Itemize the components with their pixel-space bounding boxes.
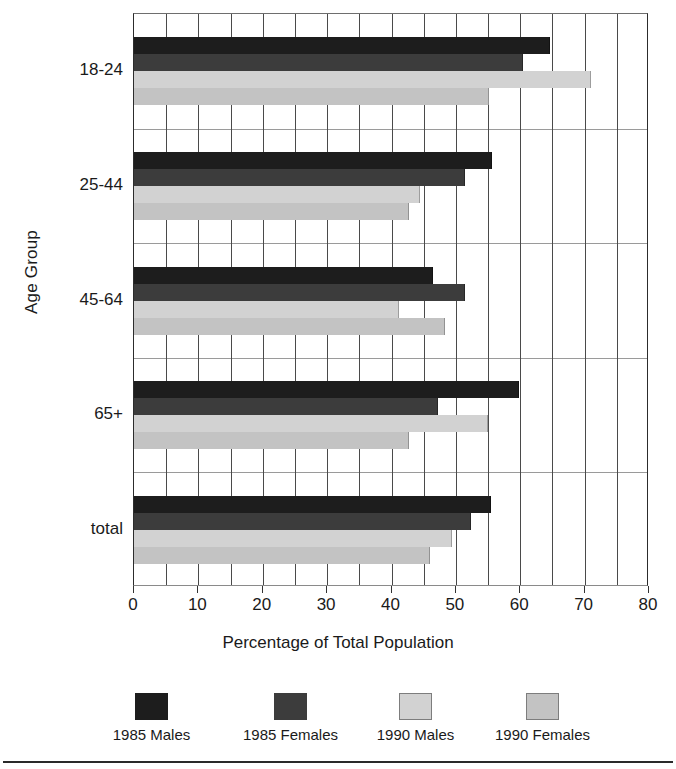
bar-25-44-1985-males[interactable] <box>134 152 492 169</box>
x-tick-0 <box>133 586 134 593</box>
plot-area <box>133 13 648 586</box>
bar-18-24-1985-males[interactable] <box>134 37 550 54</box>
x-tick-50 <box>455 586 456 593</box>
category-axis-labels: 18-2425-4445-6465+total <box>0 0 123 586</box>
bar-18-24-1990-males[interactable] <box>134 71 591 88</box>
legend-item-1990-females[interactable]: 1990 Females <box>526 693 559 720</box>
bar-chart-figure: Age Group 18-2425-4445-6465+total 010203… <box>0 0 676 769</box>
bar-total-1990-females[interactable] <box>134 547 430 564</box>
category-label-65plus: 65+ <box>13 405 123 422</box>
bar-total-1985-males[interactable] <box>134 496 491 513</box>
bar-65plus-1990-females[interactable] <box>134 432 409 449</box>
legend-label-1985-females: 1985 Females <box>243 726 338 743</box>
legend-item-1985-females[interactable]: 1985 Females <box>274 693 307 720</box>
category-label-18-24: 18-24 <box>13 61 123 78</box>
legend-item-1985-males[interactable]: 1985 Males <box>135 693 168 720</box>
bar-total-1990-males[interactable] <box>134 530 452 547</box>
x-tick-30 <box>326 586 327 593</box>
x-tick-label-70: 70 <box>564 595 604 615</box>
legend-swatch-1990-females <box>526 693 559 720</box>
bar-45-64-1990-males[interactable] <box>134 301 399 318</box>
bar-25-44-1990-females[interactable] <box>134 203 409 220</box>
legend-swatch-1985-males <box>135 693 168 720</box>
category-label-total: total <box>13 520 123 537</box>
bar-45-64-1985-males[interactable] <box>134 267 433 284</box>
x-tick-10 <box>197 586 198 593</box>
category-label-45-64: 45-64 <box>13 291 123 308</box>
x-axis-title: Percentage of Total Population <box>0 633 676 653</box>
legend-item-1990-males[interactable]: 1990 Males <box>399 693 432 720</box>
x-tick-label-0: 0 <box>113 595 153 615</box>
x-tick-60 <box>519 586 520 593</box>
legend-label-1985-males: 1985 Males <box>113 726 191 743</box>
bar-65plus-1985-males[interactable] <box>134 381 519 398</box>
bottom-divider <box>3 761 673 763</box>
bar-18-24-1985-females[interactable] <box>134 54 523 71</box>
x-tick-label-40: 40 <box>371 595 411 615</box>
bar-45-64-1985-females[interactable] <box>134 284 465 301</box>
bar-65plus-1990-males[interactable] <box>134 415 488 432</box>
bars-layer <box>134 14 647 585</box>
bar-25-44-1985-females[interactable] <box>134 169 465 186</box>
bar-18-24-1990-females[interactable] <box>134 88 489 105</box>
x-tick-label-50: 50 <box>435 595 475 615</box>
category-label-25-44: 25-44 <box>13 176 123 193</box>
x-tick-label-30: 30 <box>306 595 346 615</box>
x-axis: 01020304050607080 <box>133 586 648 626</box>
x-tick-20 <box>262 586 263 593</box>
x-tick-70 <box>584 586 585 593</box>
bar-total-1985-females[interactable] <box>134 513 471 530</box>
legend-label-1990-females: 1990 Females <box>495 726 590 743</box>
legend-swatch-1990-males <box>399 693 432 720</box>
x-tick-label-80: 80 <box>628 595 668 615</box>
chart-legend: 1985 Males1985 Females1990 Males1990 Fem… <box>0 693 676 753</box>
x-tick-80 <box>648 586 649 593</box>
bar-25-44-1990-males[interactable] <box>134 186 420 203</box>
bar-45-64-1990-females[interactable] <box>134 318 445 335</box>
x-tick-label-10: 10 <box>177 595 217 615</box>
bar-65plus-1985-females[interactable] <box>134 398 438 415</box>
x-tick-label-60: 60 <box>499 595 539 615</box>
legend-swatch-1985-females <box>274 693 307 720</box>
x-tick-40 <box>391 586 392 593</box>
legend-label-1990-males: 1990 Males <box>377 726 455 743</box>
x-tick-label-20: 20 <box>242 595 282 615</box>
